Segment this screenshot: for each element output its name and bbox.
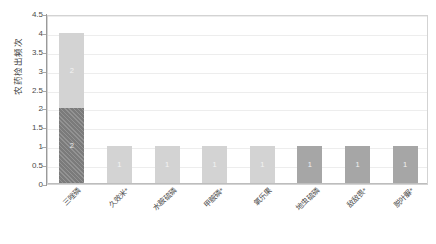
gridline bbox=[48, 35, 427, 36]
y-tick-mark bbox=[42, 109, 46, 110]
gridline bbox=[48, 73, 427, 74]
bar-chart: 农药检出频次 00.511.522.533.544.5 221111111 三唑… bbox=[0, 0, 436, 244]
bar-value-label: 1 bbox=[260, 161, 264, 169]
y-axis-tick-labels: 00.511.522.533.544.5 bbox=[18, 0, 46, 244]
y-tick-mark bbox=[42, 34, 46, 35]
bar-value-label: 1 bbox=[403, 161, 407, 169]
x-tick-label: 脱叶脲* bbox=[393, 186, 417, 210]
bar-group[interactable]: 1 bbox=[202, 15, 227, 184]
bar-segment[interactable]: 1 bbox=[345, 146, 370, 184]
y-tick-mark bbox=[42, 128, 46, 129]
gridline bbox=[48, 92, 427, 93]
x-tick-label: 氧乐果 bbox=[252, 186, 274, 208]
bar-group[interactable]: 1 bbox=[297, 15, 322, 184]
x-axis-tick-labels: 三唑磷久效米*水胺硫磷甲胺磷*氧乐果地虫硫磷敌敌畏*脱叶脲* bbox=[47, 186, 428, 244]
x-tick-label: 地虫硫磷 bbox=[295, 186, 322, 213]
bar-group[interactable]: 1 bbox=[393, 15, 418, 184]
gridline bbox=[48, 148, 427, 149]
gridline bbox=[48, 129, 427, 130]
gridline bbox=[48, 16, 427, 17]
bar-segment[interactable]: 1 bbox=[250, 146, 275, 184]
y-tick-mark bbox=[42, 166, 46, 167]
y-tick-mark bbox=[42, 147, 46, 148]
x-axis-line bbox=[48, 183, 427, 184]
y-tick-mark bbox=[42, 185, 46, 186]
bar-segment[interactable]: 1 bbox=[393, 146, 418, 184]
bar-group[interactable]: 1 bbox=[107, 15, 132, 184]
bar-segment[interactable]: 1 bbox=[202, 146, 227, 184]
x-tick-label: 敌敌畏* bbox=[345, 186, 369, 210]
gridline bbox=[48, 167, 427, 168]
bar-value-label: 1 bbox=[213, 161, 217, 169]
x-tick-label: 久效米* bbox=[107, 186, 131, 210]
bar-group[interactable]: 22 bbox=[59, 15, 84, 184]
x-tick-label: 水胺硫磷 bbox=[152, 186, 179, 213]
y-tick-mark bbox=[42, 91, 46, 92]
bar-segment[interactable]: 1 bbox=[107, 146, 132, 184]
x-tick-label: 甲胺磷* bbox=[202, 186, 226, 210]
gridline bbox=[48, 110, 427, 111]
bar-value-label: 1 bbox=[355, 161, 359, 169]
bar-value-label: 1 bbox=[308, 161, 312, 169]
y-tick-mark bbox=[42, 15, 46, 16]
bar-segment[interactable]: 2 bbox=[59, 108, 84, 184]
bar-value-label: 1 bbox=[165, 161, 169, 169]
bar-value-label: 2 bbox=[70, 142, 74, 150]
bar-value-label: 1 bbox=[117, 161, 121, 169]
x-tick-label: 三唑磷 bbox=[62, 186, 84, 208]
bar-group[interactable]: 1 bbox=[155, 15, 180, 184]
bar-group[interactable]: 1 bbox=[345, 15, 370, 184]
y-tick-mark bbox=[42, 72, 46, 73]
bar-value-label: 2 bbox=[70, 67, 74, 75]
plot-area: 221111111 bbox=[47, 15, 428, 185]
y-tick-mark bbox=[42, 53, 46, 54]
bar-segment[interactable]: 2 bbox=[59, 33, 84, 109]
bar-segment[interactable]: 1 bbox=[297, 146, 322, 184]
bar-group[interactable]: 1 bbox=[250, 15, 275, 184]
gridline bbox=[48, 54, 427, 55]
bar-segment[interactable]: 1 bbox=[155, 146, 180, 184]
